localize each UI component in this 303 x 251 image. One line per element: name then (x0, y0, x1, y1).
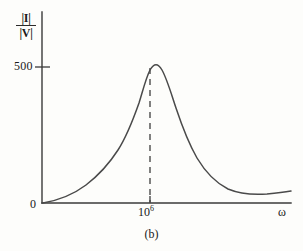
y-axis-label: |I| |V| (14, 12, 38, 39)
figure-container: |I| |V| 500 0 106 ω (b) (0, 0, 303, 251)
x-tick-exponent: 6 (150, 204, 154, 213)
y-axis-tick-label-500: 500 (14, 60, 33, 72)
origin-label: 0 (30, 198, 36, 210)
x-tick-mantissa: 10 (138, 205, 150, 219)
figure-caption: (b) (0, 228, 303, 240)
magnitude-response-curve (43, 65, 291, 203)
y-axis-label-numerator: |I| (14, 12, 38, 24)
y-axis-label-denominator: |V| (14, 27, 38, 39)
x-axis-label-omega: ω (278, 206, 286, 218)
x-axis-tick-label-1e6: 106 (138, 206, 154, 218)
